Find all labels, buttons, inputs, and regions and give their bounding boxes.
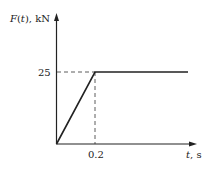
y-axis-arrow-icon [54, 13, 59, 21]
force-curve [57, 72, 189, 144]
x-tick-label-0-2: 0.2 [88, 149, 104, 160]
x-axis-arrow-icon [189, 142, 197, 147]
y-axis-label: F(t), kN [9, 13, 50, 24]
x-axis-label: t, s [186, 149, 202, 160]
force-time-diagram: F(t), kN 25 0.2 t, s [0, 0, 213, 173]
y-tick-label-25: 25 [38, 67, 51, 78]
